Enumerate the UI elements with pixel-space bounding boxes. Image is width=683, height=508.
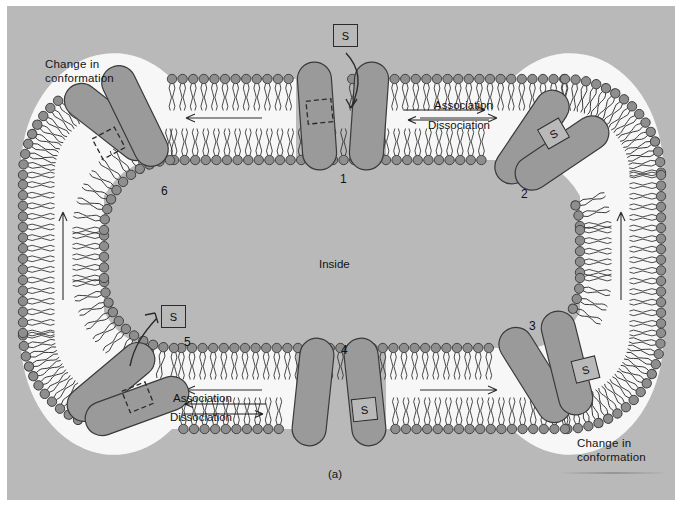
scanner-artifact bbox=[558, 472, 668, 474]
inside-label: Inside bbox=[319, 258, 350, 270]
association-label-top: Association bbox=[434, 99, 493, 111]
substrate-box-left: S bbox=[161, 305, 186, 328]
dissociation-label-top: Dissociation bbox=[428, 119, 490, 131]
annotation-change-top-left: Change in conformation bbox=[45, 58, 114, 85]
substrate-box-bottom: S bbox=[351, 397, 378, 422]
figure-canvas: Change in conformation Change in conform… bbox=[0, 0, 683, 508]
figure-caption: (a) bbox=[328, 468, 342, 480]
substrate-box-top: S bbox=[333, 24, 358, 47]
stage-number-3: 3 bbox=[529, 319, 536, 333]
carrier-stage-1 bbox=[296, 61, 389, 171]
stage-number-6: 6 bbox=[161, 184, 168, 198]
stage-number-2: 2 bbox=[521, 187, 528, 201]
stage-number-1: 1 bbox=[340, 172, 347, 186]
association-label-bottom: Association bbox=[173, 392, 232, 404]
carrier-proteins bbox=[58, 60, 616, 447]
annotation-change-bottom-right: Change in conformation bbox=[577, 437, 646, 464]
stage-number-4: 4 bbox=[341, 343, 348, 357]
stage-number-5: 5 bbox=[184, 335, 191, 349]
carrier-stage-4 bbox=[290, 337, 387, 448]
dissociation-label-bottom: Dissociation bbox=[170, 411, 232, 423]
